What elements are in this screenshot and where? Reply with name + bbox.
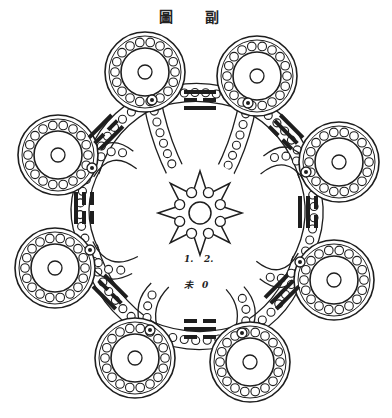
ring-bottom-left <box>95 318 175 398</box>
ring-right-lower <box>294 240 374 320</box>
label-two: 2. <box>203 254 213 264</box>
ring-right-upper <box>299 122 379 202</box>
ring-bottom-right <box>210 322 290 402</box>
trigram-upper-right <box>268 114 305 151</box>
label-one: 1. <box>184 254 193 264</box>
label-char: 未 <box>184 280 194 290</box>
trigram-bottom <box>184 319 216 339</box>
label-zero: 0 <box>202 280 209 290</box>
trigram-top <box>184 90 216 110</box>
ring-left-upper <box>18 115 98 195</box>
ring-left-lower <box>15 228 95 308</box>
ring-top-right <box>217 36 297 116</box>
mandala-diagram: 1. 2. 未 0 <box>0 0 392 418</box>
ring-top-left <box>105 32 185 112</box>
center-star <box>148 161 252 265</box>
trigram-right <box>298 196 318 228</box>
trigram-left <box>74 192 94 224</box>
